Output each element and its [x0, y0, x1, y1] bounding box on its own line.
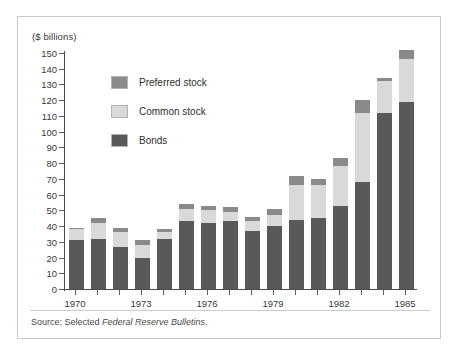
- bar-1979: [266, 209, 283, 289]
- bar-1972: [112, 228, 129, 289]
- x-tick-label-1976: 1976: [196, 298, 217, 309]
- x-tick-mark-1983: [361, 289, 362, 295]
- x-tick-mark-1984: [383, 289, 384, 295]
- bar-1978: [244, 217, 261, 289]
- y-tick-label: 20: [46, 252, 57, 263]
- bar-segment-bonds: [178, 221, 195, 289]
- bar-1980: [288, 176, 305, 289]
- y-tick-mark: [59, 242, 64, 243]
- y-tick-label: 110: [42, 110, 57, 121]
- bar-segment-bonds: [112, 247, 129, 289]
- bar-segment-preferred-stock: [156, 229, 173, 232]
- y-tick-label: 50: [46, 205, 57, 216]
- bar-segment-common-stock: [398, 59, 415, 101]
- y-tick-mark: [59, 69, 64, 70]
- bar-1971: [90, 218, 107, 289]
- bar-segment-common-stock: [354, 113, 371, 182]
- y-tick-label: 150: [41, 48, 57, 59]
- bar-segment-common-stock: [68, 229, 85, 240]
- x-tick-label-1973: 1973: [130, 298, 151, 309]
- bar-segment-common-stock: [266, 215, 283, 226]
- bar-1975: [178, 204, 195, 289]
- x-tick-mark-1981: [317, 289, 318, 295]
- bar-segment-common-stock: [178, 209, 195, 222]
- chart-legend: Preferred stockCommon stockBonds: [111, 72, 207, 159]
- x-tick-mark-1980: [295, 289, 296, 295]
- y-tick-mark: [59, 132, 64, 133]
- x-tick-label-1982: 1982: [328, 298, 349, 309]
- bar-1976: [200, 206, 217, 289]
- legend-swatch-icon: [111, 76, 128, 89]
- bar-segment-bonds: [134, 258, 151, 289]
- bar-segment-bonds: [332, 206, 349, 289]
- x-tick-label-1970: 1970: [64, 298, 85, 309]
- legend-item-preferred: Preferred stock: [111, 72, 207, 92]
- bar-segment-preferred-stock: [244, 217, 261, 222]
- legend-label: Common stock: [139, 106, 206, 117]
- y-tick-mark: [59, 195, 64, 196]
- bar-segment-bonds: [68, 240, 85, 289]
- bar-segment-preferred-stock: [178, 204, 195, 209]
- bar-segment-common-stock: [90, 223, 107, 239]
- y-tick-mark: [59, 100, 64, 101]
- y-tick-label: 130: [41, 79, 57, 90]
- bar-segment-preferred-stock: [112, 228, 129, 233]
- y-tick-mark: [59, 84, 64, 85]
- legend-label: Preferred stock: [139, 77, 207, 88]
- bar-segment-preferred-stock: [288, 176, 305, 185]
- legend-item-bonds: Bonds: [111, 130, 207, 150]
- x-tick-mark-1982: [339, 289, 340, 295]
- y-tick-label: 0: [52, 284, 57, 295]
- bar-segment-preferred-stock: [376, 78, 393, 81]
- source-note: Source: Selected Federal Reserve Bulleti…: [31, 317, 208, 327]
- x-tick-mark-1975: [185, 289, 186, 295]
- bar-segment-common-stock: [134, 245, 151, 258]
- bar-segment-common-stock: [244, 221, 261, 230]
- bar-segment-common-stock: [310, 185, 327, 218]
- bar-segment-bonds: [244, 231, 261, 289]
- y-tick-mark: [59, 147, 64, 148]
- y-tick-mark: [59, 163, 64, 164]
- x-tick-mark-1977: [229, 289, 230, 295]
- y-tick-label: 80: [46, 158, 57, 169]
- bar-segment-common-stock: [222, 212, 239, 221]
- x-tick-mark-1978: [251, 289, 252, 295]
- y-tick-mark: [59, 53, 64, 54]
- x-tick-mark-1970: [75, 289, 76, 295]
- bar-1981: [310, 179, 327, 289]
- bar-1973: [134, 240, 151, 289]
- y-tick-mark: [59, 258, 64, 259]
- bar-1970: [68, 228, 85, 289]
- y-tick-label: 100: [41, 126, 57, 137]
- y-tick-label: 120: [41, 95, 57, 106]
- x-tick-mark-1979: [273, 289, 274, 295]
- bar-segment-bonds: [266, 226, 283, 289]
- source-divider: [30, 310, 430, 311]
- bar-segment-preferred-stock: [354, 100, 371, 113]
- y-tick-label: 40: [46, 221, 57, 232]
- bar-segment-preferred-stock: [90, 218, 107, 223]
- x-tick-mark-1973: [141, 289, 142, 295]
- source-prefix: Source: Selected: [31, 317, 102, 327]
- x-tick-label-1985: 1985: [394, 298, 415, 309]
- y-tick-mark: [59, 273, 64, 274]
- bar-segment-preferred-stock: [266, 209, 283, 215]
- legend-label: Bonds: [139, 135, 167, 146]
- chart-figure: ($ billions) 010203040506070809010011012…: [17, 16, 441, 339]
- bar-segment-preferred-stock: [332, 158, 349, 166]
- legend-swatch-icon: [111, 105, 128, 118]
- y-axis-units-label: ($ billions): [32, 31, 77, 42]
- bar-segment-common-stock: [376, 81, 393, 112]
- bar-segment-bonds: [90, 239, 107, 289]
- bar-1985: [398, 50, 415, 289]
- source-suffix: .: [205, 317, 208, 327]
- y-tick-mark: [59, 289, 64, 290]
- bar-segment-common-stock: [156, 232, 173, 238]
- y-tick-label: 60: [46, 189, 57, 200]
- x-axis-line: [64, 289, 417, 290]
- bar-segment-preferred-stock: [222, 207, 239, 212]
- bar-segment-bonds: [310, 218, 327, 289]
- source-publication: Federal Reserve Bulletins: [102, 317, 205, 327]
- legend-item-common: Common stock: [111, 101, 207, 121]
- bar-segment-preferred-stock: [310, 179, 327, 185]
